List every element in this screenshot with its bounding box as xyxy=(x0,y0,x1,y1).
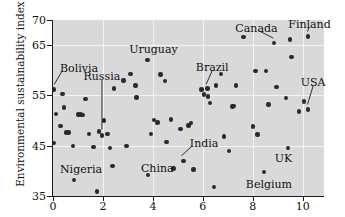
data-point xyxy=(121,78,125,82)
x-axis-tick-label: 0 xyxy=(50,201,57,212)
data-point xyxy=(274,85,278,89)
data-point xyxy=(205,86,209,90)
country-annotation-label: Belgium xyxy=(246,179,292,190)
data-point xyxy=(54,112,58,116)
data-point xyxy=(241,35,245,39)
data-point xyxy=(189,121,193,125)
country-annotation-label: Finland xyxy=(288,19,330,30)
data-point xyxy=(155,120,159,124)
scatter-plot-figure: Environmental sustainability index 35455… xyxy=(0,0,345,217)
country-annotation-label: Canada xyxy=(235,23,277,34)
data-point xyxy=(253,69,257,73)
data-point xyxy=(145,58,149,62)
data-point xyxy=(266,102,270,106)
data-point xyxy=(227,149,231,153)
country-annotation-label: Brazil xyxy=(196,62,229,73)
data-point xyxy=(212,185,216,189)
data-point xyxy=(71,144,75,148)
data-point xyxy=(112,86,116,90)
country-annotation-label: USA xyxy=(301,77,326,88)
data-point xyxy=(251,124,255,128)
data-point xyxy=(297,109,301,113)
gridline-vertical xyxy=(253,20,254,196)
data-point xyxy=(191,167,195,171)
data-point xyxy=(66,130,70,134)
data-point xyxy=(87,132,91,136)
data-point xyxy=(80,113,84,117)
data-point xyxy=(133,83,137,87)
data-point xyxy=(286,146,290,150)
data-point xyxy=(222,134,226,138)
data-point xyxy=(232,104,236,108)
x-axis-tick-label: 4 xyxy=(149,201,156,212)
data-point xyxy=(60,92,64,96)
country-annotation-label: Nigeria xyxy=(60,164,102,175)
country-annotation-label: Uruguay xyxy=(129,44,178,55)
data-point xyxy=(62,105,66,109)
country-annotation-label: India xyxy=(190,138,219,149)
data-point xyxy=(83,97,87,101)
x-axis-tick-label: 2 xyxy=(99,201,106,212)
data-point xyxy=(284,96,288,100)
data-point xyxy=(302,99,306,103)
y-axis-tick-label: 65 xyxy=(32,40,46,51)
data-point xyxy=(100,133,104,137)
data-point xyxy=(95,189,99,193)
data-point xyxy=(72,178,76,182)
data-point xyxy=(169,117,173,121)
data-point xyxy=(53,87,56,91)
data-point xyxy=(199,87,203,91)
data-point xyxy=(214,83,218,87)
y-axis-tick-label: 45 xyxy=(32,141,46,152)
x-axis-line xyxy=(52,196,324,197)
data-point xyxy=(208,101,212,105)
data-point xyxy=(105,132,109,136)
data-point xyxy=(124,144,128,148)
gridline-vertical xyxy=(103,20,104,196)
data-point xyxy=(255,132,259,136)
gridline-horizontal xyxy=(53,45,324,46)
data-point xyxy=(306,34,310,38)
data-point xyxy=(262,170,266,174)
data-point xyxy=(206,94,210,98)
y-axis-label: Environmental sustainability index xyxy=(14,0,26,189)
data-point xyxy=(178,127,182,131)
y-axis-tick-label: 55 xyxy=(32,90,46,101)
data-point xyxy=(163,79,167,83)
data-point xyxy=(289,55,293,59)
country-annotation-label: China xyxy=(141,163,174,174)
data-point xyxy=(102,118,106,122)
data-point xyxy=(91,145,95,149)
country-annotation-label: UK xyxy=(275,153,293,164)
data-point xyxy=(158,72,162,76)
data-point xyxy=(234,83,238,87)
data-point xyxy=(306,107,310,111)
data-point xyxy=(288,37,292,41)
country-annotation-label: Russia xyxy=(83,71,120,82)
y-axis-tick-label: 70 xyxy=(32,15,46,26)
data-point xyxy=(110,164,114,168)
data-point xyxy=(164,140,168,144)
gridline-vertical xyxy=(203,20,204,196)
data-point xyxy=(181,159,185,163)
x-axis-tick-label: 6 xyxy=(199,201,206,212)
data-point xyxy=(128,72,132,76)
data-point xyxy=(58,124,62,128)
x-axis-tick-label: 8 xyxy=(249,201,256,212)
data-point xyxy=(108,146,112,150)
data-point xyxy=(264,69,268,73)
x-axis-tick-label: 10 xyxy=(296,201,310,212)
gridline-vertical xyxy=(303,20,304,196)
data-point xyxy=(134,95,138,99)
y-axis-tick-label: 35 xyxy=(32,191,46,202)
data-point xyxy=(53,141,56,145)
